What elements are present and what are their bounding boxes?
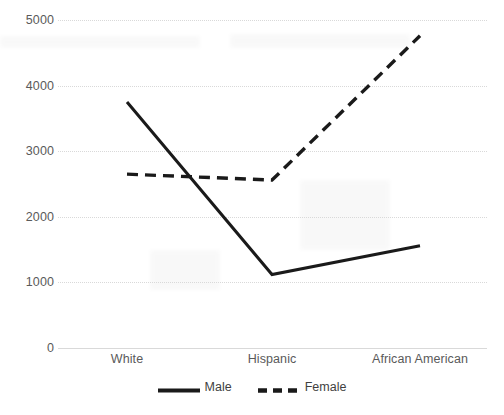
legend-label-female: Female [305, 381, 347, 394]
y-axis: 5000 4000 3000 2000 1000 0 [0, 0, 54, 415]
gridline-4000 [58, 86, 487, 87]
y-tick-label: 0 [2, 342, 54, 355]
x-tick-label-african-american: African American [372, 352, 468, 368]
gridline-5000 [58, 20, 487, 21]
line-chart: 5000 4000 3000 2000 1000 0 White Hispani… [0, 0, 504, 415]
gridline-3000 [58, 151, 487, 152]
x-tick-label-hispanic: Hispanic [248, 352, 297, 368]
gridline-2000 [58, 217, 487, 218]
x-tick-label-white: White [111, 352, 143, 368]
y-tick-label: 2000 [2, 211, 54, 224]
legend-line-dashed-icon [258, 382, 300, 393]
y-tick-label: 3000 [2, 145, 54, 158]
plot-area [58, 20, 487, 348]
legend-line-solid-icon [158, 382, 200, 393]
y-tick-label: 4000 [2, 79, 54, 92]
legend-item-female[interactable]: Female [258, 381, 347, 394]
legend-item-male[interactable]: Male [158, 381, 232, 394]
legend-label-male: Male [205, 381, 232, 394]
x-axis-line [58, 348, 487, 349]
y-tick-label: 1000 [2, 276, 54, 289]
gridline-1000 [58, 282, 487, 283]
y-tick-label: 5000 [2, 14, 54, 27]
legend: Male Female [0, 381, 504, 394]
